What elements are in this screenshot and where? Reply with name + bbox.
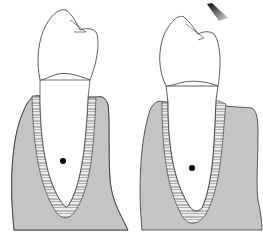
left-tooth-panel — [12, 10, 128, 230]
right-tooth-panel — [140, 16, 262, 230]
force-arrow-icon — [207, 3, 228, 21]
dental-diagram — [0, 0, 263, 235]
right-center-of-rotation-dot — [189, 165, 195, 171]
left-tooth-crown — [38, 10, 98, 80]
left-center-of-rotation-dot — [60, 158, 66, 164]
